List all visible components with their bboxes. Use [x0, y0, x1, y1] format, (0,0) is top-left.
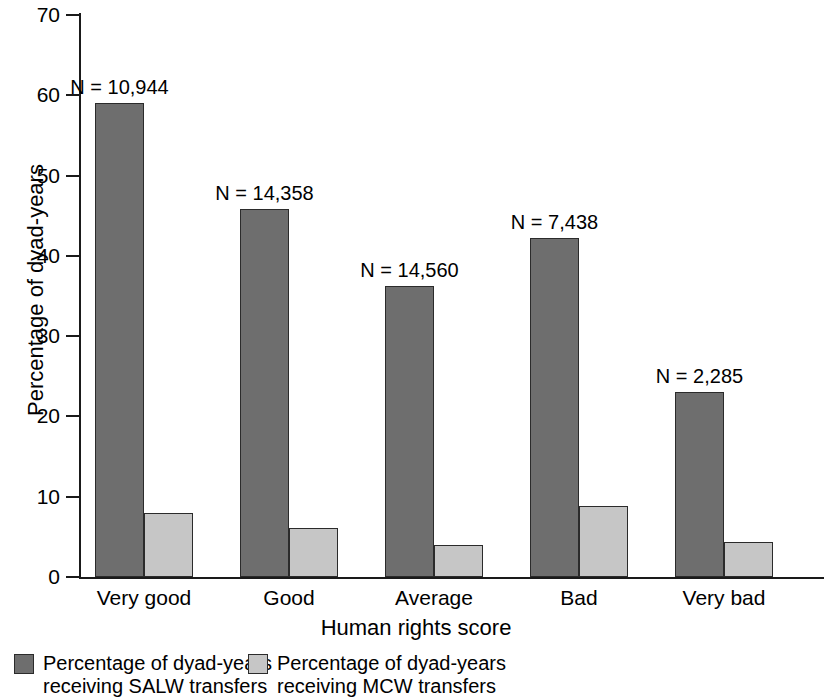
- y-axis-title: Percentage of dyad-years: [24, 164, 48, 416]
- x-axis-label-very-good: Very good: [74, 586, 214, 610]
- y-axis-tick-label: 40: [0, 245, 60, 266]
- legend-label-mcw: Percentage of dyad-years receiving MCW t…: [277, 652, 506, 698]
- y-axis-tick: [66, 14, 79, 16]
- bar-n-annotation: N = 2,285: [630, 366, 770, 386]
- x-axis-label-average: Average: [364, 586, 504, 610]
- y-axis-tick: [66, 255, 79, 257]
- x-axis-label-good: Good: [219, 586, 359, 610]
- bar-salw-very-bad: [675, 392, 724, 577]
- bar-salw-average: [385, 286, 434, 577]
- bar-mcw-bad: [579, 506, 628, 577]
- y-axis-tick-label: 10: [0, 486, 60, 507]
- legend-swatch-mcw-icon: [248, 654, 268, 674]
- bar-mcw-good: [289, 528, 338, 577]
- x-axis-label-very-bad: Very bad: [654, 586, 794, 610]
- y-axis-tick: [66, 175, 79, 177]
- bar-salw-bad: [530, 238, 579, 577]
- bar-salw-very-good: [95, 103, 144, 577]
- legend-swatch-salw-icon: [14, 654, 34, 674]
- y-axis-tick-label: 0: [0, 566, 60, 587]
- bar-n-annotation: N = 14,560: [340, 260, 480, 280]
- x-axis-label-bad: Bad: [509, 586, 649, 610]
- y-axis-tick: [66, 335, 79, 337]
- y-axis-tick-label: 50: [0, 165, 60, 186]
- x-axis-title: Human rights score: [0, 615, 832, 641]
- bar-salw-good: [240, 209, 289, 577]
- legend-item-salw: Percentage of dyad-years receiving SALW …: [14, 652, 272, 698]
- bar-n-annotation: N = 10,944: [50, 77, 190, 97]
- bar-mcw-very-bad: [724, 542, 773, 577]
- legend-label-salw: Percentage of dyad-years receiving SALW …: [43, 652, 272, 698]
- y-axis-tick-label: 30: [0, 325, 60, 346]
- y-axis-tick: [66, 496, 79, 498]
- legend-item-mcw: Percentage of dyad-years receiving MCW t…: [248, 652, 506, 698]
- y-axis-tick: [66, 576, 79, 578]
- bar-mcw-average: [434, 545, 483, 577]
- bar-n-annotation: N = 7,438: [485, 212, 625, 232]
- x-axis-line: [79, 577, 824, 579]
- chart-legend: Percentage of dyad-years receiving SALW …: [10, 652, 832, 699]
- y-axis-tick-label: 70: [0, 4, 60, 25]
- y-axis-tick-label: 20: [0, 405, 60, 426]
- bar-chart-figure: Percentage of dyad-years 706050403020100…: [0, 0, 832, 699]
- bar-n-annotation: N = 14,358: [195, 183, 335, 203]
- plot-area: [79, 15, 824, 577]
- bar-mcw-very-good: [144, 513, 193, 577]
- y-axis-tick: [66, 415, 79, 417]
